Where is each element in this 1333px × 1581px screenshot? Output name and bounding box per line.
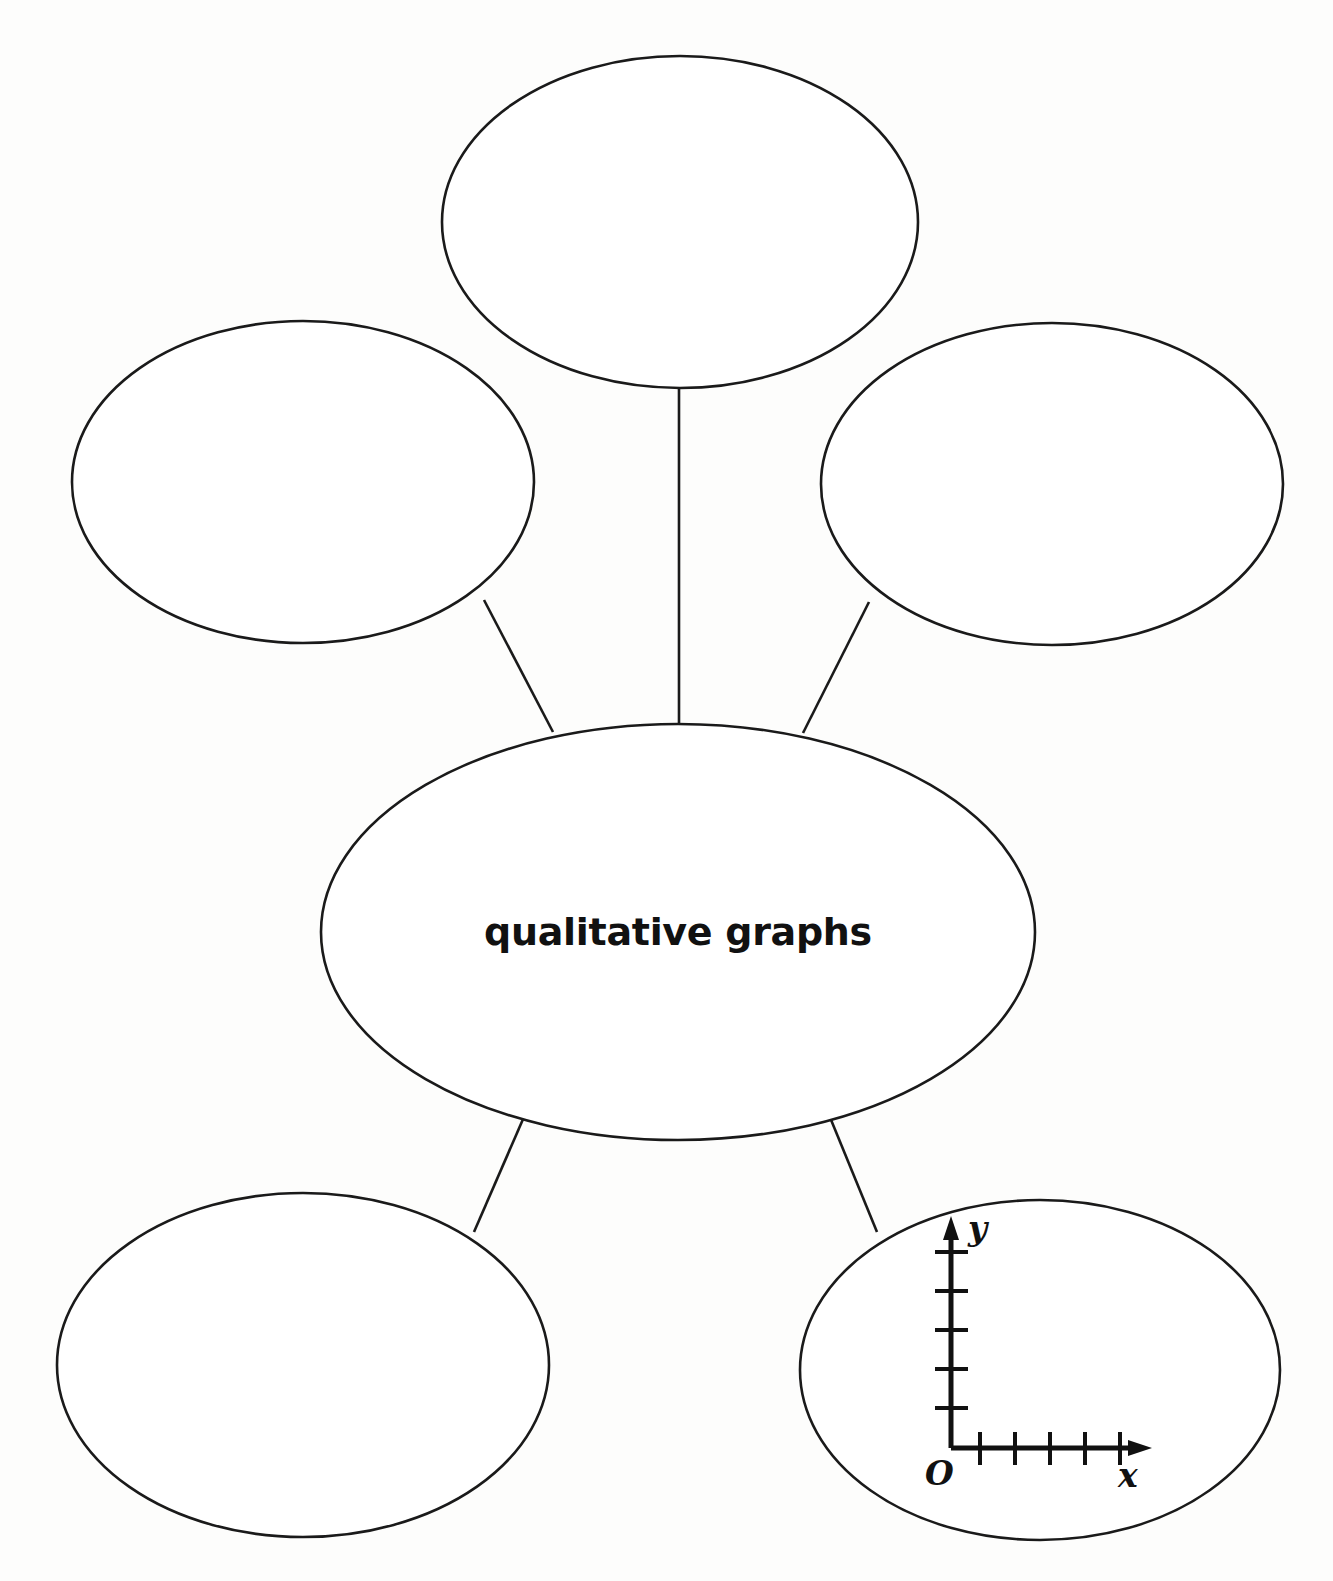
bubble-outline-lower-right[interactable] bbox=[800, 1200, 1280, 1540]
bubble-outline-upper-right[interactable] bbox=[821, 323, 1283, 645]
x-axis-label: x bbox=[1117, 1456, 1138, 1495]
connector-center-to-upper-right bbox=[803, 602, 869, 733]
bubble-outline-upper-left[interactable] bbox=[72, 321, 534, 643]
diagram-page: qualitative graphs bbox=[0, 0, 1333, 1581]
connector-center-to-upper-left bbox=[484, 600, 553, 732]
origin-label: O bbox=[925, 1454, 954, 1493]
bubble-outline-lower-left[interactable] bbox=[57, 1193, 549, 1537]
satellite-bubble-lower-right[interactable] bbox=[800, 1200, 1280, 1540]
satellite-bubble-upper-left[interactable] bbox=[72, 321, 534, 643]
satellite-bubble-upper-right[interactable] bbox=[821, 323, 1283, 645]
connector-center-to-lower-left bbox=[474, 1110, 527, 1232]
y-axis-label: y bbox=[967, 1209, 990, 1248]
connector-center-to-lower-right bbox=[827, 1110, 877, 1232]
central-topic-label: qualitative graphs bbox=[484, 910, 872, 954]
bubble-outline-top[interactable] bbox=[442, 56, 918, 388]
bubble-map-canvas: qualitative graphs bbox=[0, 0, 1333, 1581]
satellite-bubble-lower-left[interactable] bbox=[57, 1193, 549, 1537]
satellite-bubble-top[interactable] bbox=[442, 56, 918, 388]
central-bubble[interactable]: qualitative graphs bbox=[321, 724, 1035, 1140]
